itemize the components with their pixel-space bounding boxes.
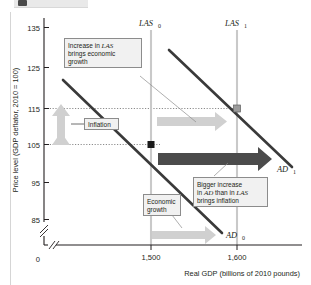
y-axis-title: Price level (GDP deflator, 2010 = 100) [11,68,20,193]
svg-text:AD: AD [276,165,288,174]
equilibrium-marker-initial [148,141,155,148]
callout-bigger-increase: Bigger increasein AD than in LASbrings i… [193,177,268,207]
x-tick-label-1600: 1,600 [227,253,246,262]
callout-economic-growth-line1: Economic [147,198,176,205]
svg-text:AD: AD [225,231,237,240]
callout-inflation: Inflation [84,118,119,130]
svg-text:0: 0 [158,23,161,29]
svg-text:1: 1 [293,169,296,175]
as-ad-chart: 135 125 115 105 95 85 0 1,500 1,600 Real… [0,0,311,285]
callout-bigger-increase-line3: brings inflation [197,197,239,204]
callout-inflation-text: Inflation [88,121,111,128]
page-margin-rule [10,12,11,285]
callout-bigger-increase-emphasis-ad: AD [204,189,213,197]
y-tick-label-125: 125 [27,64,40,73]
svg-text:LAS: LAS [224,19,240,28]
callout-increase-las: Increase in LASbrings economicgrowth [64,38,142,68]
y-tick-label-95: 95 [32,179,40,188]
callout-economic-growth: Economicgrowth [143,194,181,216]
callout-bigger-increase-emphasis-las: LAS [236,189,248,197]
figure-number-badge [18,0,27,6]
callout-economic-growth-line2: growth [147,206,167,213]
callout-increase-las-line1: Increase in [68,42,102,49]
x-tick-label-1500: 1,500 [141,253,160,262]
equilibrium-marker-new [234,105,241,112]
callout-increase-las-line2: brings economic [68,50,115,57]
callout-increase-las-line3: growth [68,58,88,65]
callout-bigger-increase-line2b: than in [213,189,236,196]
origin-label: 0 [36,255,40,264]
y-tick-label-135: 135 [27,24,40,33]
x-axis-ticks [151,245,237,250]
callout-bigger-increase-line2a: in [197,189,204,196]
callout-bigger-increase-line1: Bigger increase [197,181,242,188]
x-axis-title: Real GDP (billions of 2010 pounds) [184,269,300,278]
y-tick-label-115: 115 [28,105,40,114]
svg-text:0: 0 [242,235,245,241]
y-tick-label-85: 85 [32,216,40,225]
y-tick-label-105: 105 [27,141,40,150]
callout-increase-las-emphasis: LAS [102,42,114,50]
svg-text:LAS: LAS [138,19,154,28]
svg-text:1: 1 [244,23,247,29]
figure-container: 135 125 115 105 95 85 0 1,500 1,600 Real… [0,0,311,285]
